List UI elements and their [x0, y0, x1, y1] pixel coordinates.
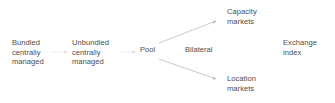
node-location-markets: Location markets	[227, 74, 256, 93]
edge-pool-to-location	[159, 59, 216, 79]
node-unbundled-centrally-managed: Unbundled centrally managed	[72, 38, 109, 67]
node-label-line: Pool	[140, 45, 155, 55]
edge-label-bilateral: Bilateral	[185, 45, 212, 55]
node-label-line: Location	[227, 74, 256, 84]
node-bundled-centrally-managed: Bundled centrally managed	[12, 38, 44, 67]
node-label-line: Capacity	[227, 7, 257, 17]
node-pool: Pool	[140, 45, 155, 55]
node-label-line: centrally	[12, 48, 44, 58]
node-label-line: managed	[72, 57, 109, 67]
node-exchange-index: Exchange index	[283, 38, 317, 57]
node-label-line: markets	[227, 17, 257, 27]
node-capacity-markets: Capacity markets	[227, 7, 257, 26]
node-label-line: Exchange	[283, 38, 317, 48]
node-label-line: Unbundled	[72, 38, 109, 48]
node-label-line: managed	[12, 57, 44, 67]
node-label-line: Bundled	[12, 38, 44, 48]
node-label-line: index	[283, 48, 317, 58]
edge-pool-to-capacity	[159, 21, 216, 43]
node-label-line: markets	[227, 84, 256, 94]
node-label-line: centrally	[72, 48, 109, 58]
diagram-canvas: Bundled centrally managed Unbundled cent…	[0, 0, 335, 103]
